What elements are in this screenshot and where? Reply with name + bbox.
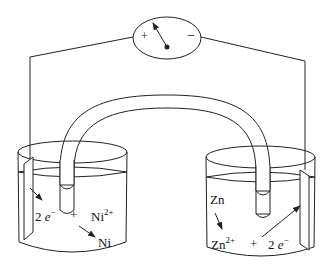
salt-bridge: [60, 95, 270, 214]
left-plus: +: [70, 208, 77, 221]
zinc-electrode: [300, 170, 309, 250]
zinc-metal: Zn: [210, 193, 224, 206]
nickel-product: Ni: [98, 236, 111, 249]
nickel-ion: Ni2+: [91, 208, 114, 223]
diagram-drawing: [0, 0, 331, 270]
meter-minus-label: −: [187, 29, 195, 43]
galvanic-cell-diagram: + − 2 e− + Ni2+ Ni Zn Zn2+ + 2 e−: [0, 0, 331, 270]
right-electrons: 2 e−: [268, 236, 289, 251]
nickel-electrode: [24, 157, 33, 240]
zinc-ion: Zn2+: [211, 236, 235, 251]
left-electrons: 2 e−: [35, 208, 56, 223]
meter-plus-label: +: [141, 30, 148, 42]
right-plus: +: [250, 237, 257, 250]
